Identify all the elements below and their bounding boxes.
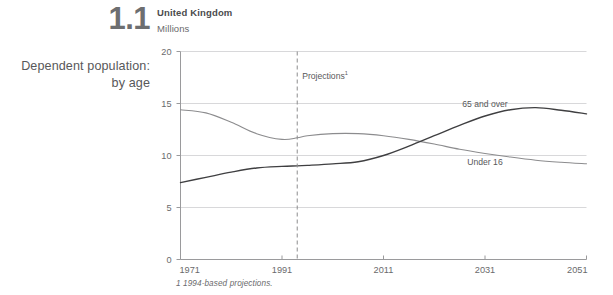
gridlines-group	[181, 52, 587, 208]
y-tick-label: 5	[166, 203, 171, 213]
x-axis-tick-labels: 19711991201120312051	[180, 265, 588, 275]
y-axis-tick-marks	[177, 52, 181, 260]
series-line-65-and-over	[181, 108, 587, 183]
projection-label: Projections1	[302, 70, 348, 81]
x-tick-label: 1991	[272, 265, 292, 275]
figure-root: 1.1 Dependent population: by age United …	[0, 0, 613, 295]
y-axis-tick-labels: 05101520	[161, 47, 171, 265]
y-tick-label: 10	[161, 151, 171, 161]
series-labels-group: Under 1665 and over	[462, 99, 508, 167]
y-tick-label: 20	[161, 47, 171, 57]
x-tick-label: 2051	[567, 265, 587, 275]
x-axis-tick-marks	[181, 256, 587, 260]
x-tick-label: 1971	[180, 265, 200, 275]
y-tick-label: 15	[161, 99, 171, 109]
line-chart: 05101520 19711991201120312051 Projection…	[0, 0, 613, 295]
y-tick-label: 0	[166, 255, 171, 265]
x-tick-label: 2011	[374, 265, 394, 275]
projection-superscript: 1	[345, 70, 348, 76]
series-label-65-and-over: 65 and over	[462, 99, 508, 109]
series-label-under-16: Under 16	[467, 157, 503, 167]
x-tick-label: 2031	[475, 265, 495, 275]
footnote: 1 1994-based projections.	[176, 279, 273, 288]
series-paths-group	[181, 108, 587, 183]
